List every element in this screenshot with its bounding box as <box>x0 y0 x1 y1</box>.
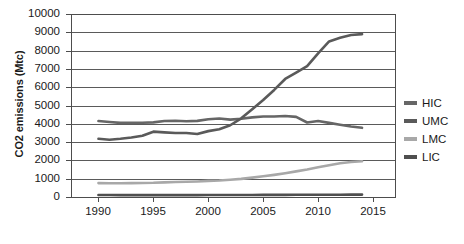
series-line-lic <box>98 195 362 196</box>
legend-label: LIC <box>422 151 440 164</box>
legend-item-hic[interactable]: HIC <box>404 94 448 112</box>
co2-emissions-line-chart: CO2 emissions (Mtc) 01000200030004000500… <box>0 0 464 244</box>
legend-swatch-icon <box>404 155 417 159</box>
legend-item-umc[interactable]: UMC <box>404 112 448 130</box>
series-lines <box>0 0 464 244</box>
legend-item-lmc[interactable]: LMC <box>404 130 448 148</box>
legend-item-lic[interactable]: LIC <box>404 148 448 166</box>
chart-legend: HICUMCLMCLIC <box>404 94 448 166</box>
legend-label: UMC <box>422 115 448 128</box>
series-line-lmc <box>98 161 362 183</box>
legend-swatch-icon <box>404 101 417 105</box>
legend-swatch-icon <box>404 137 417 141</box>
legend-swatch-icon <box>404 119 417 123</box>
legend-label: HIC <box>422 97 442 110</box>
legend-label: LMC <box>422 133 446 146</box>
